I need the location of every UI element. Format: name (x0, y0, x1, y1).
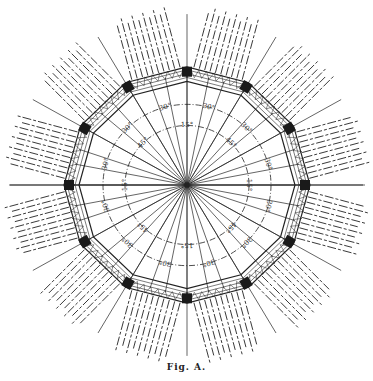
svg-text:15°: 15° (181, 121, 193, 129)
svg-text:30°: 30° (202, 257, 216, 268)
svg-text:30°: 30° (100, 157, 111, 171)
svg-text:30°: 30° (120, 121, 134, 135)
figure-caption: Fig. A. (0, 362, 373, 372)
svg-text:30°: 30° (100, 199, 111, 213)
svg-text:15°: 15° (121, 179, 129, 191)
svg-text:30°: 30° (158, 102, 172, 113)
svg-text:45°: 45° (136, 220, 150, 234)
svg-text:30°: 30° (158, 257, 172, 268)
truss-plan-diagram: 30°30°30°30°30°30°30°30°30°30°30°30°15°4… (0, 0, 373, 381)
svg-text:30°: 30° (202, 102, 216, 113)
svg-text:15°: 15° (181, 241, 193, 249)
svg-text:15°: 15° (245, 179, 253, 191)
svg-text:30°: 30° (263, 157, 274, 171)
svg-text:45°: 45° (224, 220, 238, 234)
svg-text:30°: 30° (239, 235, 253, 249)
svg-text:30°: 30° (263, 199, 274, 213)
svg-text:45°: 45° (136, 136, 150, 150)
